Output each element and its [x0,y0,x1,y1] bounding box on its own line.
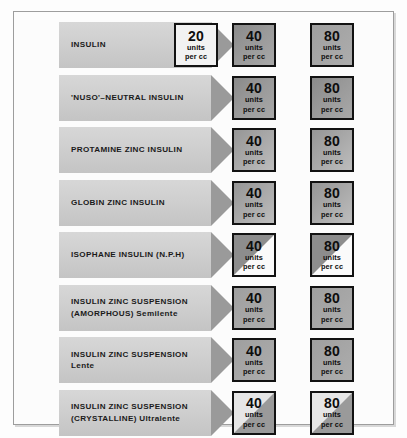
dose-box-text: 40unitsper cc [243,81,265,114]
dose-box[interactable]: 20unitsper cc [174,23,218,67]
preparation-label-line1: PROTAMINE ZINC INSULIN [71,144,211,156]
chart-row: 'NUSO'–NEUTRAL INSULIN40unitsper cc80uni… [13,75,394,121]
dose-value: 80 [321,29,343,43]
dose-value: 40 [243,291,265,305]
preparation-label-line1: INSULIN ZINC SUSPENSION [71,349,211,361]
preparation-banner[interactable]: INSULIN ZINC SUSPENSION(CRYSTALLINE) Ult… [59,390,211,436]
dose-box-text: 80unitsper cc [321,81,343,114]
dose-value: 40 [243,134,265,148]
units-line1: units [243,44,265,52]
dose-box[interactable]: 40unitsper cc [232,391,276,435]
units-line2: per cc [243,421,265,429]
preparation-label-line1: 'NUSO'–NEUTRAL INSULIN [71,92,211,104]
dose-box[interactable]: 80unitsper cc [310,233,354,277]
units-line1: units [321,254,343,262]
dose-box[interactable]: 80unitsper cc [310,76,354,120]
units-line2: per cc [321,316,343,324]
dose-value: 80 [321,396,343,410]
arrow-head-icon [211,337,234,383]
dose-box-text: 40unitsper cc [243,239,265,272]
units-line1: units [321,44,343,52]
units-line1: units [243,149,265,157]
chart-row: PROTAMINE ZINC INSULIN40unitsper cc80uni… [13,127,394,173]
chart-row: INSULIN20unitsper cc40unitsper cc80units… [13,22,394,68]
dose-box-text: 40unitsper cc [243,29,265,62]
units-line2: per cc [321,106,343,114]
dose-box[interactable]: 40unitsper cc [232,181,276,225]
dose-box[interactable]: 80unitsper cc [310,286,354,330]
arrow-head-icon [211,180,234,226]
units-line2: per cc [321,211,343,219]
arrow-head-icon [211,75,234,121]
dose-value: 40 [243,344,265,358]
units-line1: units [321,306,343,314]
preparation-label-line1: INSULIN ZINC SUSPENSION [71,296,211,308]
dose-box-text: 80unitsper cc [321,239,343,272]
units-line1: units [243,411,265,419]
dose-value: 80 [321,344,343,358]
dose-value: 80 [321,81,343,95]
dose-box-text: 40unitsper cc [243,344,265,377]
dose-box-text: 20unitsper cc [185,29,207,62]
units-line2: per cc [321,421,343,429]
preparation-label-line1: INSULIN ZINC SUSPENSION [71,401,211,413]
dose-box-text: 80unitsper cc [321,396,343,429]
dose-box[interactable]: 80unitsper cc [310,338,354,382]
preparation-banner[interactable]: 'NUSO'–NEUTRAL INSULIN [59,75,211,121]
dose-box-text: 80unitsper cc [321,344,343,377]
units-line2: per cc [321,158,343,166]
units-line1: units [243,96,265,104]
units-line1: units [243,254,265,262]
dose-box-text: 40unitsper cc [243,186,265,219]
preparation-label-line2: Lente [71,360,211,372]
preparation-banner[interactable]: ISOPHANE INSULIN (N.P.H) [59,232,211,278]
units-line2: per cc [321,368,343,376]
preparation-label-line1: GLOBIN ZINC INSULIN [71,197,211,209]
units-line2: per cc [243,106,265,114]
preparation-label-line1: ISOPHANE INSULIN (N.P.H) [71,249,211,261]
units-line1: units [185,44,207,52]
preparation-banner[interactable]: GLOBIN ZINC INSULIN [59,180,211,226]
dose-box[interactable]: 40unitsper cc [232,338,276,382]
units-line1: units [321,411,343,419]
preparation-label-line2: (CRYSTALLINE) Ultralente [71,413,211,425]
chart-row: GLOBIN ZINC INSULIN40unitsper cc80unitsp… [13,180,394,226]
dose-box[interactable]: 80unitsper cc [310,128,354,172]
dose-box[interactable]: 40unitsper cc [232,233,276,277]
units-line1: units [321,201,343,209]
units-line1: units [321,96,343,104]
dose-box[interactable]: 40unitsper cc [232,128,276,172]
units-line1: units [243,306,265,314]
arrow-head-icon [211,127,234,173]
dose-box-text: 80unitsper cc [321,134,343,167]
dose-box[interactable]: 80unitsper cc [310,391,354,435]
chart-row: INSULIN ZINC SUSPENSION(CRYSTALLINE) Ult… [13,390,394,436]
dose-value: 40 [243,186,265,200]
chart-row: ISOPHANE INSULIN (N.P.H)40unitsper cc80u… [13,232,394,278]
preparation-banner[interactable]: PROTAMINE ZINC INSULIN [59,127,211,173]
dose-value: 40 [243,29,265,43]
dose-value: 80 [321,239,343,253]
dose-box-text: 40unitsper cc [243,396,265,429]
dose-value: 40 [243,81,265,95]
preparation-banner[interactable]: INSULIN ZINC SUSPENSION(AMORPHOUS) Semil… [59,285,211,331]
dose-box[interactable]: 40unitsper cc [232,76,276,120]
chart-row: INSULIN ZINC SUSPENSION(AMORPHOUS) Semil… [13,285,394,331]
dose-value: 40 [243,239,265,253]
dose-box-text: 40unitsper cc [243,291,265,324]
units-line2: per cc [243,368,265,376]
dose-box-text: 80unitsper cc [321,29,343,62]
dose-box[interactable]: 80unitsper cc [310,181,354,225]
dose-box[interactable]: 80unitsper cc [310,23,354,67]
dose-box[interactable]: 40unitsper cc [232,23,276,67]
preparation-banner[interactable]: INSULIN ZINC SUSPENSIONLente [59,337,211,383]
dose-box[interactable]: 40unitsper cc [232,286,276,330]
preparation-label-line2: (AMORPHOUS) Semilente [71,308,211,320]
units-line2: per cc [321,263,343,271]
units-line2: per cc [243,53,265,61]
units-line1: units [243,201,265,209]
units-line2: per cc [243,263,265,271]
units-line1: units [321,149,343,157]
dose-value: 80 [321,134,343,148]
dose-value: 80 [321,291,343,305]
